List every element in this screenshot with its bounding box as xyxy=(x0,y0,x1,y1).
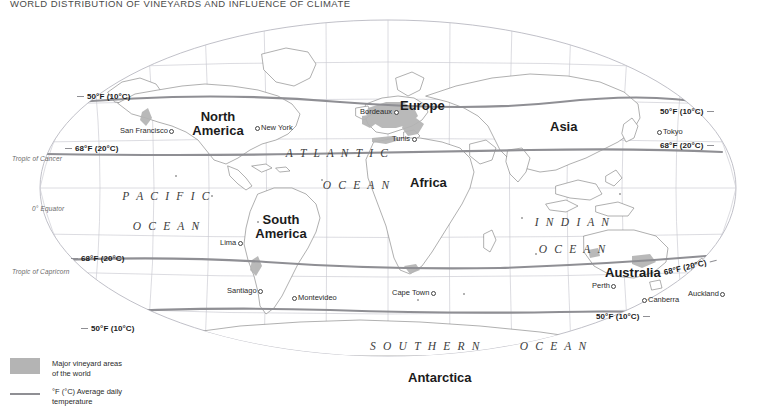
city-dot-icon xyxy=(611,284,616,289)
city-auckland: Auckland xyxy=(688,289,727,298)
label-pacific-ocean: P A C I F I C O C E A N xyxy=(92,190,242,232)
isotherm-text: 68°F (20°C) xyxy=(660,141,704,150)
legend: Major vineyard areas of the world °F (°C… xyxy=(10,358,210,414)
graticule-label-tropic-of-cancer: Tropic of Cancer xyxy=(12,155,62,162)
label-north-america-line2: America xyxy=(175,124,261,138)
city-perth: Perth xyxy=(592,281,618,290)
city-dot-icon xyxy=(169,129,174,134)
label-north-america-line1: North xyxy=(175,110,261,124)
label-southern-line1: S O U T H E R N xyxy=(370,340,482,352)
label-south-america-line1: South xyxy=(238,213,324,227)
city-dot-icon xyxy=(258,289,263,294)
city-lima-label: Lima xyxy=(220,238,236,247)
isotherm-tick-icon xyxy=(707,145,714,146)
label-asia: Asia xyxy=(550,120,577,133)
label-indian-line2: O C E A N xyxy=(518,243,628,255)
city-dot-icon xyxy=(255,126,260,131)
label-atlantic-line2: O C E A N xyxy=(296,179,418,191)
city-santiago-label: Santiago xyxy=(227,286,257,295)
city-bordeaux-label: Bordeaux xyxy=(360,107,392,116)
label-atlantic-line1: A T L A N T I C xyxy=(258,147,418,159)
city-dot-icon xyxy=(657,130,662,135)
city-montevideo-label: Montevideo xyxy=(298,293,337,302)
legend-item-temperature: °F (°C) Average daily temperature xyxy=(10,386,210,406)
isotherm-tick-icon xyxy=(71,258,78,259)
isotherm-tick-icon xyxy=(709,260,716,263)
city-cape-town-label: Cape Town xyxy=(392,288,429,297)
label-australia: Australia xyxy=(605,266,661,279)
city-perth-label: Perth xyxy=(592,281,610,290)
label-indian-ocean: I N D I A N O C E A N xyxy=(518,216,628,255)
isotherm-label-south-50f-right: 50°F (10°C) xyxy=(596,312,653,321)
city-new-york-label: New York xyxy=(261,123,293,132)
city-new-york: New York xyxy=(253,123,293,132)
isotherm-label-north-68f-right: 68°F (20°C) xyxy=(660,141,717,150)
city-dot-icon xyxy=(720,292,725,297)
city-bordeaux: Bordeaux xyxy=(360,107,400,116)
isotherm-text: 50°F (10°C) xyxy=(660,107,704,116)
legend-vineyard-line2: of the world xyxy=(52,369,122,379)
city-san-francisco: San Francisco xyxy=(120,126,176,135)
isotherm-tick-icon xyxy=(81,328,88,329)
isotherm-label-south-50f-left: 50°F (10°C) xyxy=(78,324,135,333)
city-dot-icon xyxy=(292,296,297,301)
legend-vineyard-text: Major vineyard areas of the world xyxy=(52,358,122,378)
city-dot-icon xyxy=(412,137,417,142)
city-san-francisco-label: San Francisco xyxy=(120,126,168,135)
isotherm-text: 68°F (20°C) xyxy=(81,254,125,263)
world-vineyard-map-page: WORLD DISTRIBUTION OF VINEYARDS AND INFL… xyxy=(0,0,776,414)
city-tokyo: Tokyo xyxy=(655,127,683,136)
label-south-america: South America xyxy=(238,213,324,241)
city-dot-icon xyxy=(431,291,436,296)
city-cape-town: Cape Town xyxy=(392,288,437,297)
legend-temperature-line1: °F (°C) Average daily xyxy=(52,387,122,397)
label-pacific-line1: P A C I F I C xyxy=(92,190,242,202)
label-pacific-line2: O C E A N xyxy=(92,220,242,232)
city-lima: Lima xyxy=(220,238,244,247)
label-atlantic-ocean: A T L A N T I C O C E A N xyxy=(258,147,418,191)
city-tokyo-label: Tokyo xyxy=(663,127,683,136)
vineyard-swatch-icon xyxy=(10,358,40,374)
legend-temperature-line2: temperature xyxy=(52,397,122,407)
city-tunis-label: Tunis xyxy=(392,134,410,143)
legend-temperature-text: °F (°C) Average daily temperature xyxy=(52,386,122,406)
graticule-label-tropic-of-capricorn: Tropic of Capricorn xyxy=(12,268,70,275)
city-santiago: Santiago xyxy=(227,286,265,295)
isotherm-tick-icon xyxy=(643,316,650,317)
isotherm-tick-icon xyxy=(707,111,714,112)
isotherm-label-north-68f-left: 68°F (20°C) xyxy=(62,144,119,153)
city-dot-icon xyxy=(394,110,399,115)
isotherm-label-north-50f-left: 50°F (10°C) xyxy=(74,92,131,101)
label-north-america: North America xyxy=(175,110,261,138)
label-south-america-line2: America xyxy=(238,227,324,241)
label-europe: Europe xyxy=(400,99,445,112)
isotherm-tick-icon xyxy=(77,96,84,97)
isotherm-text: 50°F (10°C) xyxy=(91,324,135,333)
isotherm-text: 50°F (10°C) xyxy=(596,312,640,321)
city-montevideo: Montevideo xyxy=(290,293,337,302)
label-southern-ocean: S O U T H E R N O C E A N xyxy=(370,340,590,352)
isotherm-text: 50°F (10°C) xyxy=(87,92,131,101)
graticule-label-equator: 0° Equator xyxy=(32,205,64,212)
city-canberra: Canberra xyxy=(640,295,679,304)
city-canberra-label: Canberra xyxy=(648,295,679,304)
city-auckland-label: Auckland xyxy=(688,289,719,298)
city-dot-icon xyxy=(642,298,647,303)
isotherm-text: 68°F (20°C) xyxy=(75,144,119,153)
isotherm-tick-icon xyxy=(65,148,72,149)
temperature-line-icon xyxy=(10,386,40,402)
city-tunis: Tunis xyxy=(392,134,418,143)
legend-vineyard-line1: Major vineyard areas xyxy=(52,359,122,369)
city-dot-icon xyxy=(238,241,243,246)
legend-item-vineyard: Major vineyard areas of the world xyxy=(10,358,210,378)
isotherm-label-south-68f-left: 68°F (20°C) xyxy=(68,254,125,263)
label-indian-line1: I N D I A N xyxy=(518,216,628,228)
isotherm-label-north-50f-right: 50°F (10°C) xyxy=(660,107,717,116)
label-antarctica: Antarctica xyxy=(408,371,472,384)
label-southern-line2: O C E A N xyxy=(520,340,589,352)
